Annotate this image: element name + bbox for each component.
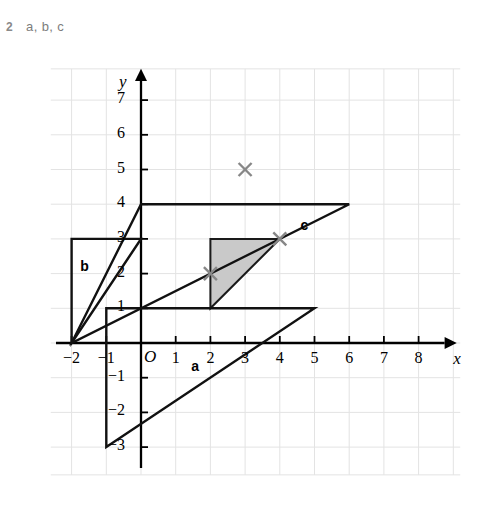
x-tick-label-neg2: −2 (60, 349, 84, 367)
shape-label-b: b (80, 258, 89, 274)
y-tick-label-neg3: −3 (99, 436, 125, 454)
x-axis-label: x (453, 349, 461, 369)
y-tick-label-neg1: −1 (99, 367, 125, 385)
y-tick-label-3: 3 (99, 228, 125, 246)
y-tick-label-neg2: −2 (99, 401, 125, 419)
shape-label-a: a (191, 358, 199, 374)
x-tick-label-5: 5 (303, 349, 327, 367)
coordinate-grid-diagram (0, 0, 480, 508)
x-tick-label-7: 7 (372, 349, 396, 367)
x-tick-label-2: 2 (198, 349, 222, 367)
origin-label: O (144, 347, 156, 367)
y-tick-label-1: 1 (99, 297, 125, 315)
x-axis-arrow-icon (445, 337, 457, 349)
x-tick-label-3: 3 (233, 349, 257, 367)
x-tick-label-1: 1 (164, 349, 188, 367)
y-tick-label-4: 4 (99, 193, 125, 211)
x-tick-label-8: 8 (407, 349, 431, 367)
y-axis-label: y (119, 72, 127, 92)
y-tick-label-6: 6 (99, 124, 125, 142)
worksheet-page: 2 a, b, c −2−112345678−3−2−11234567Oxyab… (0, 0, 480, 508)
shape-label-c: c (301, 217, 309, 233)
y-tick-label-5: 5 (99, 159, 125, 177)
x-tick-label-neg1: −1 (94, 349, 118, 367)
y-tick-label-2: 2 (99, 263, 125, 281)
x-tick-label-6: 6 (337, 349, 361, 367)
y-axis-arrow-icon (135, 69, 147, 81)
x-tick-label-4: 4 (268, 349, 292, 367)
